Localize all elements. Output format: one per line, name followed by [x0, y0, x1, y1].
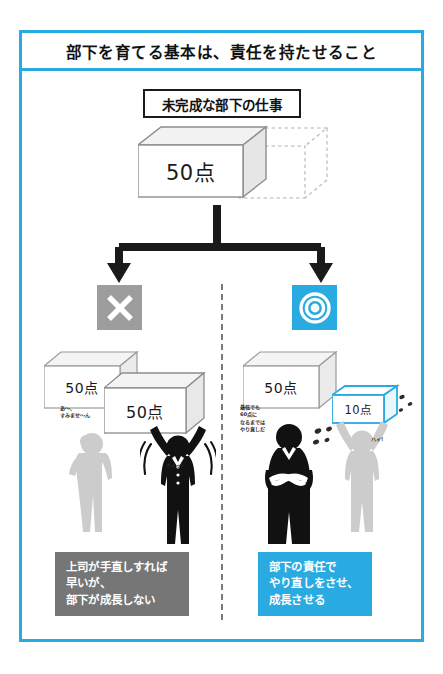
right-caption-line-2: やり直しをさせ、 — [269, 575, 363, 591]
left-caption-line-2: 早いが、 — [66, 575, 180, 591]
sparkle-marks-icon — [396, 392, 418, 418]
section-divider — [221, 284, 223, 620]
page-title: 部下を育てる基本は、責任を持たせること — [66, 40, 378, 62]
right-caption-line-1: 部下の責任で — [269, 559, 363, 575]
main-box-label: 50点 — [166, 156, 215, 186]
subheading-label: 未完成な部下の仕事 — [162, 94, 282, 114]
left-subordinate-speech: あ〜、 すみませ〜ん — [60, 405, 90, 420]
left-boss-speech: ホイッ! — [166, 462, 183, 469]
left-caption-box: 上司が手直しすれば 早いが、 部下が成長しない — [55, 552, 189, 616]
main-score-box: 50点 — [138, 125, 308, 207]
title-bar: 部下を育てる基本は、責任を持たせること — [19, 30, 424, 71]
right-caption-box: 部下の責任で やり直しをさせ、 成長させる — [258, 552, 372, 616]
cross-icon-glyph — [104, 292, 136, 324]
subheading-box: 未完成な部下の仕事 — [143, 89, 301, 118]
gray-subordinate-figure-left — [62, 424, 122, 536]
double-circle-icon — [292, 285, 337, 330]
branch-arrows — [95, 205, 345, 295]
left-box-1-label: 50点 — [65, 377, 98, 397]
black-boss-figure-left — [140, 418, 216, 546]
right-caption-line-3: 成長させる — [269, 592, 363, 608]
double-circle-icon-glyph — [298, 291, 332, 325]
left-caption-line-3: 部下が成長しない — [66, 592, 180, 608]
cross-icon — [97, 285, 142, 330]
motion-marks-icon — [310, 425, 340, 451]
right-subordinate-speech: ハイ! — [371, 436, 383, 443]
right-box-1-label: 50点 — [264, 377, 297, 397]
right-boss-speech: 最低でも 60点に なるまでは やり直しだ — [240, 404, 265, 434]
infographic-page: 部下を育てる基本は、責任を持たせること 未完成な部下の仕事 50点 — [0, 0, 443, 674]
left-caption-line-1: 上司が手直しすれば — [66, 559, 180, 575]
